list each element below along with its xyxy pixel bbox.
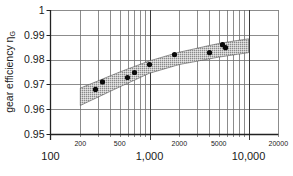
y-axis-label: gear efficiency ηG <box>3 31 16 113</box>
y-tick-label: 1 <box>39 4 45 16</box>
plot-axes <box>47 10 279 140</box>
data-point <box>207 50 212 55</box>
x-major-tick-label: 10,000 <box>232 150 266 162</box>
data-point <box>172 52 177 57</box>
x-minor-tick-label: 200 <box>74 140 86 147</box>
x-minor-tick-label: 5000 <box>211 140 227 147</box>
y-tick-label: 0.98 <box>24 53 45 65</box>
x-minor-tick-label: 2000 <box>172 140 188 147</box>
data-point <box>132 70 137 75</box>
data-point <box>93 87 98 92</box>
axis-labels: 10.990.980.970.960.952005002000500020000… <box>24 4 288 162</box>
y-tick-label: 0.99 <box>24 29 45 41</box>
x-major-tick-label: 1,000 <box>136 150 164 162</box>
y-tick-label: 0.96 <box>24 103 45 115</box>
x-major-tick-label: 100 <box>41 150 59 162</box>
plot-grid <box>51 10 279 140</box>
x-minor-tick-label: 500 <box>114 140 126 147</box>
data-point <box>125 75 130 80</box>
gear-efficiency-chart: 10.990.980.970.960.952005002000500020000… <box>0 0 293 176</box>
data-point <box>100 79 105 84</box>
x-minor-tick-label: 20000 <box>269 140 289 147</box>
y-tick-label: 0.97 <box>24 78 45 90</box>
data-point <box>223 45 228 50</box>
y-tick-label: 0.95 <box>24 128 45 140</box>
data-point <box>147 62 152 67</box>
